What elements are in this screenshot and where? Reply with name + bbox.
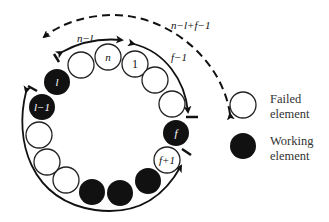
legend-working-icon	[230, 133, 256, 159]
failed-element-icon	[26, 122, 52, 148]
failed-element-icon	[142, 67, 168, 93]
working-element-icon	[107, 180, 133, 206]
element-label: l	[55, 76, 58, 88]
legend-failed-icon	[230, 92, 256, 118]
boundary-tick	[28, 86, 37, 91]
label-n-l-f-1: n−l+f−1	[171, 19, 210, 31]
element-label: 1	[132, 57, 138, 71]
legend-failed-line1: Failed	[270, 92, 310, 107]
label-f-1: f−1	[171, 51, 187, 63]
label-n-l: n−l	[77, 32, 93, 44]
working-element-icon	[135, 168, 161, 194]
working-element-icon	[79, 179, 105, 205]
legend-working-line2: element	[270, 149, 313, 164]
failed-element-icon	[34, 149, 60, 175]
legend-working-label: Working element	[270, 134, 313, 164]
boundary-tick	[182, 149, 191, 155]
legend-failed-line2: element	[270, 107, 310, 122]
element-label: n	[105, 51, 111, 63]
failed-element-icon	[68, 52, 94, 78]
element-label: f+1	[159, 154, 175, 166]
element-label: l−1	[34, 101, 50, 113]
legend-failed-label: Failed element	[270, 92, 310, 122]
failed-element-icon	[159, 91, 185, 117]
legend-working-line1: Working	[270, 134, 313, 149]
boundary-tick	[54, 54, 59, 62]
